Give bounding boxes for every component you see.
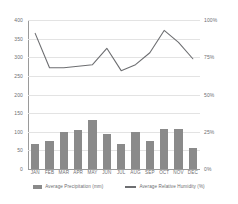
y-axis-right-tick: 75% xyxy=(204,55,214,60)
humidity-line-series xyxy=(28,20,200,169)
humidity-polyline xyxy=(35,30,193,70)
line-swatch-icon xyxy=(125,186,136,188)
y-axis-left-tick: 0 xyxy=(20,167,23,172)
y-axis-left-tick: 300 xyxy=(14,55,23,60)
x-axis-tick-oct: OCT xyxy=(159,170,169,176)
legend-label-precipitation: Average Precipitation (mm) xyxy=(45,184,103,190)
x-axis-tick-dec: DEC xyxy=(188,170,198,176)
bar-swatch-icon xyxy=(33,185,42,189)
legend-label-humidity: Average Relative Humidity (%) xyxy=(139,184,204,190)
y-axis-left-tick: 350 xyxy=(14,36,23,41)
y-axis-left-tick: 50 xyxy=(17,148,23,153)
x-axis-tick-jun: JUN xyxy=(102,170,111,176)
y-axis-right-tick: 0% xyxy=(204,167,211,172)
chart-legend: Average Precipitation (mm) Average Relat… xyxy=(0,184,238,190)
y-axis-left-tick: 100 xyxy=(14,129,23,134)
y-axis-right-tick: 50% xyxy=(204,92,214,97)
x-axis-tick-may: MAY xyxy=(88,170,98,176)
y-axis-left-tick: 200 xyxy=(14,92,23,97)
x-axis-tick-nov: NOV xyxy=(173,170,183,176)
y-axis-left-tick: 400 xyxy=(14,18,23,23)
y-axis-left-labels: 050100150200250300350400 xyxy=(0,20,26,169)
plot-area xyxy=(28,20,200,169)
legend-item-humidity: Average Relative Humidity (%) xyxy=(125,184,204,190)
x-axis-tick-jul: JUL xyxy=(117,170,125,176)
x-axis-tick-aug: AUG xyxy=(130,170,140,176)
y-axis-left-tick: 250 xyxy=(14,73,23,78)
x-axis-tick-apr: APR xyxy=(73,170,83,176)
x-axis-tick-mar: MAR xyxy=(59,170,70,176)
x-axis-tick-jan: JAN xyxy=(31,170,40,176)
y-axis-right-labels: 0%25%50%75%100% xyxy=(202,20,236,169)
x-axis-tick-sep: SEP xyxy=(145,170,155,176)
climate-chart: 050100150200250300350400 0%25%50%75%100%… xyxy=(0,0,238,204)
y-axis-left-tick: 150 xyxy=(14,111,23,116)
x-axis-labels: JANFEBMARAPRMAYJUNJULAUGSEPOCTNOVDEC xyxy=(28,170,200,180)
x-axis-tick-feb: FEB xyxy=(45,170,54,176)
legend-item-precipitation: Average Precipitation (mm) xyxy=(33,184,103,190)
y-axis-right-tick: 100% xyxy=(204,18,217,23)
y-axis-right-tick: 25% xyxy=(204,129,214,134)
